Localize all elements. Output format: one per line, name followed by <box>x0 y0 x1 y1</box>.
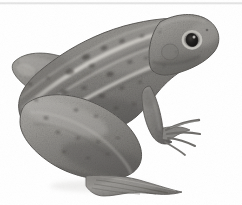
image-canvas: Grayscale photograph of a frog in right-… <box>0 0 242 205</box>
frog-illustration <box>0 0 242 205</box>
film-grain-overlay <box>0 0 242 205</box>
